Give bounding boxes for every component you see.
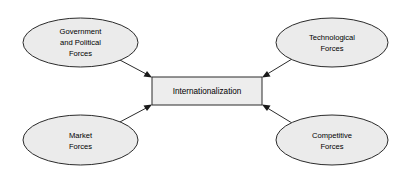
node-competitive-forces-line-1: Competitive: [312, 131, 352, 140]
node-government-and-political-forces-line-1: Government: [60, 27, 103, 36]
node-government-and-political-forces[interactable]: Government and Political Forces: [23, 18, 138, 67]
node-technological-forces-line-1: Technological: [309, 33, 355, 42]
node-technological-forces-line-2: Forces: [320, 44, 343, 53]
node-government-and-political-forces-line-2: and Political: [60, 38, 101, 47]
node-market-forces-shape: [23, 115, 138, 165]
arrow-government-to-center-head: [144, 71, 153, 78]
arrow-competitive-to-center-head: [262, 105, 271, 112]
node-internationalization[interactable]: Internationalization: [152, 77, 262, 105]
node-government-and-political-forces-line-3: Forces: [69, 49, 92, 58]
node-internationalization-label: Internationalization: [173, 87, 242, 96]
node-market-forces[interactable]: Market Forces: [23, 115, 138, 165]
node-competitive-forces-shape: [276, 115, 388, 165]
arrow-government-to-center-line: [118, 59, 150, 76]
node-competitive-forces-line-2: Forces: [320, 142, 343, 151]
node-technological-forces[interactable]: Technological Forces: [276, 18, 388, 67]
diagram-canvas: Government and Political Forces Technolo…: [0, 0, 405, 178]
arrow-market-to-center-line: [118, 106, 150, 123]
arrow-technological-to-center-head: [262, 71, 271, 78]
diagram-svg: Government and Political Forces Technolo…: [0, 0, 405, 178]
arrow-market-to-center-head: [144, 105, 153, 112]
node-market-forces-line-1: Market: [69, 131, 93, 140]
node-market-forces-line-2: Forces: [69, 142, 92, 151]
node-technological-forces-shape: [276, 18, 388, 67]
node-competitive-forces[interactable]: Competitive Forces: [276, 115, 388, 165]
